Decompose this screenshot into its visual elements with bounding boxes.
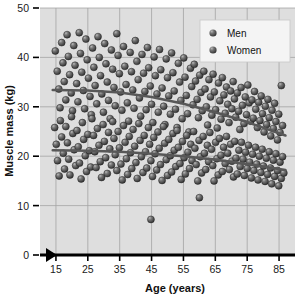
data-point-women: [145, 124, 152, 131]
data-point-men: [182, 74, 189, 81]
data-point-men: [141, 88, 148, 95]
data-point-men: [92, 82, 99, 89]
x-tick-label: 35: [114, 263, 126, 275]
data-point-women: [208, 146, 215, 153]
y-axis-title: Muscle mass (kg): [3, 85, 15, 177]
data-point-men: [264, 96, 271, 103]
data-point-men: [54, 68, 61, 75]
data-point-women: [62, 123, 69, 130]
data-point-men: [171, 87, 178, 94]
data-point-women: [147, 216, 154, 223]
data-point-women: [122, 139, 129, 146]
x-tick-label: 85: [273, 263, 285, 275]
data-point-men: [244, 82, 251, 89]
data-point-women: [233, 155, 240, 162]
y-tick-label: 50: [17, 2, 29, 14]
data-point-men: [110, 84, 117, 91]
data-point-men: [272, 118, 279, 125]
x-tick-label: 75: [241, 263, 253, 275]
data-point-men: [139, 51, 146, 58]
data-point-women: [179, 138, 186, 145]
data-point-women: [196, 194, 203, 201]
data-point-women: [78, 175, 85, 182]
data-point-men: [133, 58, 140, 65]
data-point-men: [211, 88, 218, 95]
data-point-women: [101, 138, 108, 145]
data-point-men: [115, 52, 122, 59]
x-tick-label: 55: [178, 263, 190, 275]
data-point-women: [190, 128, 197, 135]
data-point-women: [252, 144, 259, 151]
data-point-women: [248, 174, 255, 181]
data-point-men: [226, 119, 233, 126]
data-point-women: [264, 171, 271, 178]
data-point-women: [54, 157, 61, 164]
data-point-men: [172, 106, 179, 113]
data-point-men: [258, 92, 265, 99]
data-point-women: [156, 145, 163, 152]
data-point-women: [132, 159, 139, 166]
data-point-women: [143, 165, 150, 172]
data-point-men: [131, 105, 138, 112]
data-point-men: [72, 62, 79, 69]
legend-label-men: Men: [227, 28, 246, 39]
data-point-women: [259, 146, 266, 153]
data-point-men: [62, 96, 69, 103]
data-point-men: [151, 53, 158, 60]
data-point-men: [112, 102, 119, 109]
data-point-men: [123, 81, 130, 88]
data-point-men: [135, 76, 142, 83]
data-point-women: [64, 139, 71, 146]
data-point-women: [109, 118, 116, 125]
legend-marker-women: [209, 46, 216, 53]
data-point-women: [231, 138, 238, 145]
data-point-men: [87, 93, 94, 100]
data-point-men: [152, 72, 159, 79]
data-point-men: [184, 110, 191, 117]
data-point-women: [241, 172, 248, 179]
data-point-women: [200, 133, 207, 140]
chart-legend: Men Women: [200, 20, 290, 62]
data-point-men: [230, 78, 237, 85]
data-point-women: [206, 129, 213, 136]
data-point-men: [156, 46, 163, 53]
data-point-men: [144, 44, 151, 51]
data-point-men: [84, 56, 91, 63]
data-point-men: [204, 122, 211, 129]
data-point-women: [223, 133, 230, 140]
data-point-men: [168, 49, 175, 56]
data-point-men: [243, 111, 250, 118]
data-point-men: [160, 103, 167, 110]
data-point-men: [267, 132, 274, 139]
data-point-women: [224, 150, 231, 157]
data-point-men: [256, 117, 263, 124]
data-point-women: [147, 157, 154, 164]
data-point-men: [101, 40, 108, 47]
y-tick-label: 30: [17, 101, 29, 113]
data-point-women: [76, 160, 83, 167]
data-point-women: [57, 117, 64, 124]
data-point-men: [128, 68, 135, 75]
data-point-men: [179, 115, 186, 122]
data-point-men: [180, 54, 187, 61]
data-point-women: [61, 166, 68, 173]
data-point-men: [140, 70, 147, 77]
data-point-men: [118, 107, 125, 114]
data-point-women: [183, 132, 190, 139]
data-point-women: [184, 149, 191, 156]
data-point-men: [85, 75, 92, 82]
data-point-women: [126, 133, 133, 140]
legend-label-women: Women: [227, 45, 261, 56]
data-point-women: [105, 129, 112, 136]
data-point-women: [270, 157, 277, 164]
data-point-men: [251, 88, 258, 95]
y-tick-label: 40: [17, 51, 29, 63]
data-point-men: [248, 96, 255, 103]
data-point-men: [250, 115, 257, 122]
data-point-men: [73, 80, 80, 87]
data-point-men: [102, 60, 109, 67]
data-point-women: [88, 115, 95, 122]
data-point-men: [78, 69, 85, 76]
data-point-women: [135, 120, 142, 127]
data-point-men: [147, 83, 154, 90]
